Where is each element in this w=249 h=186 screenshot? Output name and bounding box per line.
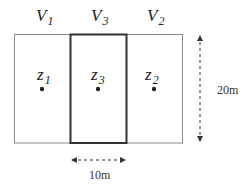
point-z2-dot bbox=[152, 87, 156, 91]
volume-v2-subscript: 2 bbox=[158, 14, 164, 28]
point-z3-name: z bbox=[91, 65, 98, 84]
height-dimension-label: 20m bbox=[217, 84, 238, 96]
point-z1-dot bbox=[40, 87, 44, 91]
point-label-z2: z2 bbox=[145, 66, 159, 86]
width-dimension-label: 10m bbox=[89, 169, 110, 181]
volume-label-v2: V2 bbox=[147, 7, 164, 27]
volume-v2-name: V bbox=[147, 6, 157, 25]
volume-label-v3: V3 bbox=[91, 7, 108, 27]
point-label-z1: z1 bbox=[37, 66, 51, 86]
point-z2-name: z bbox=[145, 65, 152, 84]
point-label-z3: z3 bbox=[91, 66, 105, 86]
point-z1-subscript: 1 bbox=[45, 73, 51, 87]
diagram-canvas bbox=[0, 0, 249, 186]
volume-v1-subscript: 1 bbox=[47, 14, 53, 28]
volume-label-v1: V1 bbox=[36, 7, 53, 27]
volume-diagram: V1 V3 V2 z1 z3 z2 20m 10m bbox=[0, 0, 249, 186]
point-z2-subscript: 2 bbox=[153, 73, 159, 87]
point-z3-dot bbox=[96, 87, 100, 91]
volume-v1-name: V bbox=[36, 6, 46, 25]
volume-v3-name: V bbox=[91, 6, 101, 25]
volume-v3-subscript: 3 bbox=[102, 14, 108, 28]
point-z3-subscript: 3 bbox=[99, 73, 105, 87]
point-z1-name: z bbox=[37, 65, 44, 84]
